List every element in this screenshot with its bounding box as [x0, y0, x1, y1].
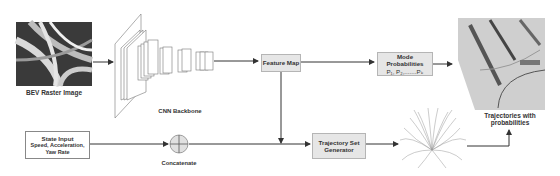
state-input-title: State Input: [42, 135, 74, 142]
trajectory-set-generator-box: Trajectory Set Generator: [312, 133, 366, 159]
bev-raster-label: BEV Raster Image: [14, 89, 94, 96]
cnn-backbone: [115, 14, 213, 118]
bev-raster-image: [16, 22, 92, 86]
state-input-box: State Input Speed, Acceleration, Yaw Rat…: [25, 131, 90, 159]
output-trajectory-image: [458, 18, 545, 110]
mode-probabilities-title: Mode Probabilities: [378, 53, 432, 68]
output-label: Trajectories with probabilities: [478, 112, 542, 126]
feature-map-box: Feature Map: [261, 54, 301, 72]
cnn-backbone-label: CNN Backbone: [150, 108, 210, 114]
mode-probabilities-formula: P₁, P₂,.......Pₖ: [386, 68, 423, 75]
trajectory-fan: [400, 108, 466, 168]
trajectory-set-generator-label: Trajectory Set Generator: [313, 139, 365, 154]
state-input-detail: Speed, Acceleration, Yaw Rate: [26, 142, 89, 155]
mode-probabilities-box: Mode Probabilities P₁, P₂,.......Pₖ: [377, 52, 433, 76]
concatenate-node: [170, 135, 188, 153]
feature-map-label: Feature Map: [263, 59, 299, 66]
concatenate-label: Concatenate: [155, 160, 203, 166]
